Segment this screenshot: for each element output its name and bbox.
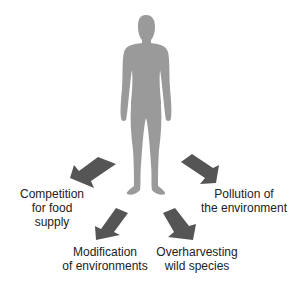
label-modification: Modification of environments (62, 245, 148, 273)
label-line: the environment (200, 201, 288, 215)
label-line: Modification (62, 245, 148, 259)
label-competition: Competition for food supply (12, 187, 92, 229)
label-overharvesting: Overharvesting wild species (155, 245, 239, 273)
arrow-pollution-icon (181, 154, 219, 184)
label-line: of environments (62, 259, 148, 273)
human-figure-icon (121, 15, 172, 195)
diagram-canvas (0, 0, 297, 282)
arrow-overharvesting-icon (163, 208, 196, 240)
label-line: Pollution of (200, 187, 288, 201)
label-line: Competition (12, 187, 92, 201)
label-line: for food (12, 201, 92, 215)
arrow-competition-icon (70, 157, 116, 188)
arrow-modification-icon (95, 208, 128, 240)
label-line: wild species (155, 259, 239, 273)
label-pollution: Pollution of the environment (200, 187, 288, 215)
label-line: Overharvesting (155, 245, 239, 259)
label-line: supply (12, 215, 92, 229)
